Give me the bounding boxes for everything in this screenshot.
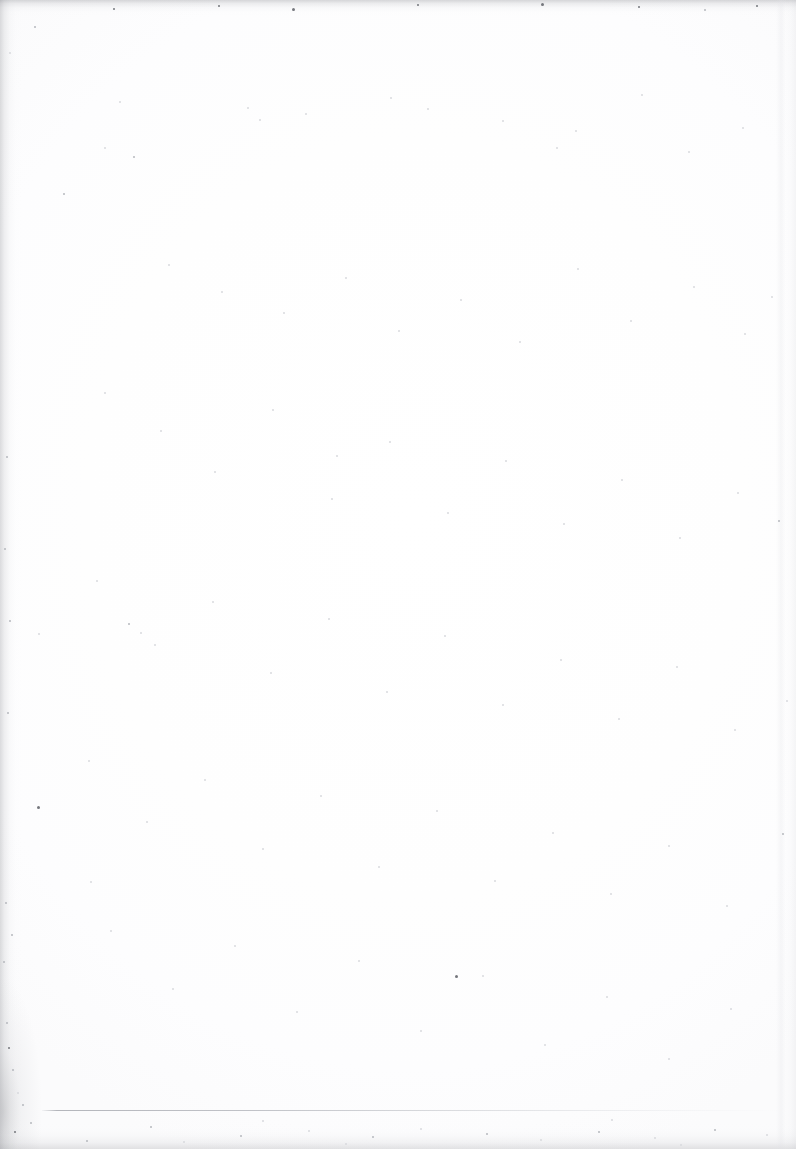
dust-speck — [556, 147, 558, 149]
dust-speck — [436, 810, 438, 812]
edge-shadow-left — [0, 0, 22, 1149]
dust-speck — [688, 151, 690, 153]
dust-speck — [726, 905, 728, 907]
dust-speck — [113, 8, 115, 10]
dust-speck — [154, 644, 156, 646]
dust-speck — [104, 392, 106, 394]
horizontal-rule — [42, 1110, 780, 1111]
edge-shadow-right — [780, 0, 796, 1149]
dust-speck — [486, 1133, 488, 1135]
dust-speck — [320, 795, 322, 797]
dust-speck — [104, 147, 106, 149]
dust-speck — [9, 52, 11, 54]
dust-speck — [742, 127, 744, 129]
dust-speck — [128, 623, 130, 625]
dust-speck — [519, 341, 521, 343]
dust-speck — [679, 537, 681, 539]
dust-speck — [447, 512, 449, 514]
dust-speck — [386, 691, 388, 693]
dust-speck — [444, 635, 446, 637]
dust-speck — [308, 1130, 310, 1132]
scan-edge-shadows — [0, 0, 796, 1149]
dust-speck — [704, 9, 706, 11]
dust-speck — [372, 1136, 374, 1138]
dust-speck — [119, 101, 121, 103]
dust-speck — [378, 866, 380, 868]
dust-speck — [540, 1139, 542, 1141]
dust-speck — [734, 729, 736, 731]
dust-speck — [4, 548, 6, 550]
dust-speck — [14, 1131, 16, 1133]
dust-speck — [610, 893, 612, 895]
dust-speck — [417, 4, 419, 6]
dust-speck — [618, 718, 620, 720]
dust-speck — [7, 712, 9, 714]
dust-speck — [6, 1022, 8, 1024]
dust-speck — [502, 120, 504, 122]
dust-speck — [11, 934, 13, 936]
dust-speck — [63, 193, 65, 195]
dust-speck — [262, 1120, 264, 1122]
dust-speck — [654, 1137, 656, 1139]
dust-speck — [389, 441, 391, 443]
dust-speck — [270, 672, 272, 674]
dust-speck — [505, 460, 507, 462]
dust-speck — [183, 1141, 185, 1143]
dust-speck — [766, 1134, 768, 1136]
dust-speck — [204, 779, 206, 781]
dust-speck — [598, 1131, 600, 1133]
dust-speck — [140, 632, 142, 634]
dust-speck — [296, 1011, 298, 1013]
dust-speck — [494, 880, 496, 882]
dust-speck — [420, 1030, 422, 1032]
right-margin-streak-artifact — [776, 0, 786, 1149]
paper-background — [0, 0, 796, 1149]
dust-speck — [345, 1143, 347, 1145]
dust-speck — [606, 996, 608, 998]
dust-speck — [146, 821, 148, 823]
dust-speck — [771, 296, 773, 298]
dust-speck — [6, 456, 8, 458]
dust-speck — [292, 8, 295, 11]
dust-speck — [160, 430, 162, 432]
dust-speck — [221, 291, 223, 293]
dust-speck — [575, 130, 577, 132]
dust-speck — [218, 5, 220, 7]
dust-speck — [676, 666, 678, 668]
dust-speck — [38, 633, 40, 635]
dust-speck — [331, 498, 333, 500]
dust-speck — [34, 26, 36, 28]
dust-speck — [427, 108, 429, 110]
dust-speck — [737, 492, 739, 494]
dust-speck — [455, 975, 458, 978]
dust-speck — [240, 1135, 242, 1137]
dust-speck — [390, 97, 392, 99]
edge-shadow-bottom — [0, 1123, 796, 1149]
dust-speck — [212, 601, 214, 603]
dust-speckle-layer — [0, 0, 796, 1149]
dust-speck — [3, 961, 5, 963]
dust-speck — [782, 833, 784, 835]
dust-speck — [150, 1126, 152, 1128]
dust-speck — [638, 6, 640, 8]
dust-speck — [482, 975, 484, 977]
dust-speck — [12, 1069, 14, 1071]
dust-speck — [460, 299, 462, 301]
dust-speck — [544, 1044, 546, 1046]
dust-speck — [283, 312, 285, 314]
dust-speck — [730, 1008, 732, 1010]
dust-speck — [680, 1144, 682, 1146]
dust-speck — [17, 1092, 19, 1094]
dust-speck — [641, 94, 643, 96]
dust-speck — [398, 330, 400, 332]
dust-speck — [9, 620, 11, 622]
dust-speck — [668, 845, 670, 847]
dust-speck — [668, 1058, 670, 1060]
edge-shadow-top — [0, 0, 796, 16]
dust-speck — [86, 1140, 88, 1142]
dust-speck — [693, 286, 695, 288]
dust-speck — [22, 1104, 24, 1106]
dust-speck — [336, 455, 338, 457]
dust-speck — [262, 848, 264, 850]
dust-speck — [621, 479, 623, 481]
